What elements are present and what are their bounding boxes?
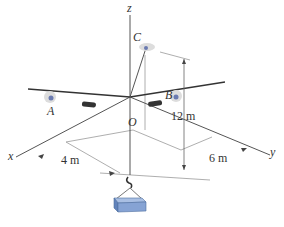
x-axis xyxy=(16,97,130,157)
spring-a xyxy=(82,101,96,107)
point-o-label: O xyxy=(128,116,137,128)
point-c-label: C xyxy=(133,31,141,43)
dim-6m-label: 6 m xyxy=(209,152,227,164)
x-axis-label: x xyxy=(8,150,13,162)
z-axis-label: z xyxy=(127,2,132,14)
cable-OC xyxy=(130,48,146,97)
crate-icon xyxy=(114,198,146,212)
hook-icon xyxy=(127,177,132,188)
spring-b xyxy=(148,100,163,107)
point-a-label: A xyxy=(47,105,54,117)
dim-12m-label: 12 m xyxy=(171,110,195,122)
point-b-label: B xyxy=(165,89,172,101)
y-axis-label: y xyxy=(270,146,275,158)
diagram-canvas xyxy=(0,0,284,227)
cable-OA xyxy=(28,89,130,97)
dim-4m-label: 4 m xyxy=(61,154,79,166)
